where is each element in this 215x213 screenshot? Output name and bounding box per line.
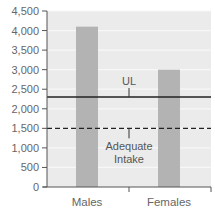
adequate-intake-label-line2: Intake bbox=[114, 153, 144, 165]
y-tick-label: 4,500 bbox=[11, 5, 39, 17]
y-tick-label: 0 bbox=[33, 181, 39, 193]
ul-label: UL bbox=[122, 75, 136, 87]
y-tick-label: 2,000 bbox=[11, 103, 39, 115]
bar-chart: 05001,0001,5002,0002,5003,0003,5004,0004… bbox=[0, 0, 215, 213]
adequate-intake-label-line1: Adequate bbox=[105, 140, 152, 152]
x-axis-labels: MalesFemales bbox=[72, 196, 192, 208]
y-tick-label: 1,500 bbox=[11, 122, 39, 134]
y-tick-label: 3,500 bbox=[11, 44, 39, 56]
x-label-females: Females bbox=[147, 196, 191, 208]
y-tick-label: 4,000 bbox=[11, 25, 39, 37]
bar-males bbox=[76, 27, 98, 187]
y-tick-label: 1,000 bbox=[11, 142, 39, 154]
y-tick-label: 2,500 bbox=[11, 83, 39, 95]
y-tick-label: 500 bbox=[21, 161, 39, 173]
y-axis-ticks: 05001,0001,5002,0002,5003,0003,5004,0004… bbox=[11, 5, 47, 193]
x-label-males: Males bbox=[72, 196, 103, 208]
y-tick-label: 3,000 bbox=[11, 64, 39, 76]
